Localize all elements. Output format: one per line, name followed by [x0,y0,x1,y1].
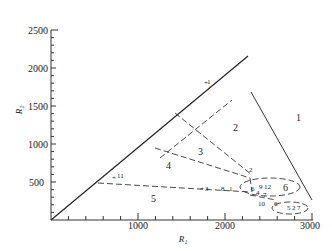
x-tick-3000: 3000 [300,220,320,231]
point-label: 2 [249,166,253,174]
x-tick-2000: 2000 [215,220,235,231]
plus-marker: + [200,185,204,193]
y-tick-1000: 1000 [28,139,48,150]
point-label: 9 [259,183,263,191]
point-label: 6 [274,200,278,208]
x-tick-1000: 1000 [128,220,148,231]
diagonal-line [51,56,248,220]
y-axis [51,30,58,220]
point-label: 5 [287,204,291,212]
y-tick-500: 500 [29,177,44,188]
point-label: 8 [221,185,225,193]
y-axis-label: R₂ [14,106,24,116]
phase-diagram-chart: 2500 2000 1500 1000 500 1000 2000 3000 R… [0,0,332,251]
point-label: 7 [263,191,267,199]
point-label: 12 [264,183,272,191]
region-label-5: 5 [151,193,156,204]
region-label-2: 2 [233,122,238,133]
point-label: 10 [258,200,266,208]
point-label: 11 [117,172,124,180]
region-label-4: 4 [166,160,171,171]
point-label: 4 [256,189,260,197]
point-label: 1 [229,185,233,193]
region-label-6: 6 [283,182,288,193]
y-tick-1500: 1500 [28,101,48,112]
y-tick-2500: 2500 [28,25,48,36]
y-tick-2000: 2000 [28,63,48,74]
plus-marker: + [112,174,116,182]
point-label: 6 [251,185,255,193]
region-label-1: 1 [296,112,301,123]
region-label-3: 3 [198,146,203,157]
plus-marker: + [204,79,208,87]
dashed-boundaries [98,100,308,214]
point-label: 2 [292,204,296,212]
point-label: 3 [205,185,209,193]
x-axis [51,213,313,220]
point-label: 7 [297,204,301,212]
x-axis-label: R₁ [178,234,188,244]
